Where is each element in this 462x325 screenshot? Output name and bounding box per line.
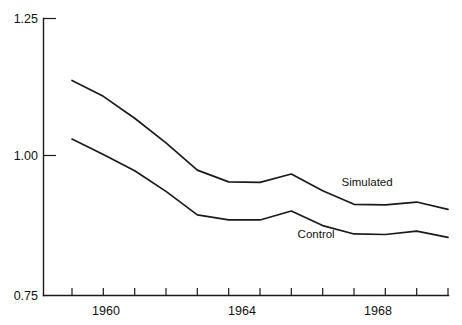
series-label-control: Control [298, 228, 335, 240]
x-tick-label-group: 1960 1964 1968 [92, 304, 392, 318]
chart-canvas: 1.25 1.00 0.75 1960 1964 1968 Simulated … [0, 0, 462, 325]
y-tick-label-group: 1.25 1.00 0.75 [14, 12, 38, 303]
x-tick-group [72, 288, 448, 295]
series-label-simulated: Simulated [342, 176, 393, 188]
x-tick-label-1960: 1960 [92, 304, 120, 318]
y-tick-label-bottom: 0.75 [14, 289, 38, 303]
line-chart: 1.25 1.00 0.75 1960 1964 1968 Simulated … [0, 0, 462, 325]
series-line-simulated [72, 80, 448, 209]
x-tick-label-1964: 1964 [228, 304, 256, 318]
y-tick-label-mid: 1.00 [14, 149, 38, 163]
y-tick-label-top: 1.25 [14, 12, 38, 26]
x-tick-label-1968: 1968 [364, 304, 392, 318]
series-group [72, 80, 448, 237]
